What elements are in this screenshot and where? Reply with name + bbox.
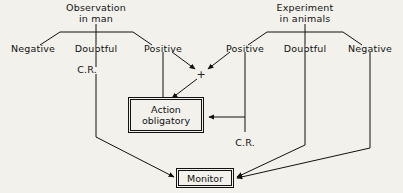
action-box-inner-border: Action obligatory: [130, 99, 202, 131]
action-obligatory-box: Action obligatory: [128, 97, 204, 133]
label-observation-doubtful: Doubtful: [75, 43, 118, 54]
right-tree-branches: [248, 24, 362, 45]
right-tree-title: Experiment in animals: [277, 2, 334, 24]
label-cr-left: C.R.: [77, 64, 97, 75]
plus-to-action: [172, 79, 197, 98]
right-positive-to-plus: [208, 52, 230, 69]
monitor-box-line1: Monitor: [187, 173, 223, 184]
left-tree-branches: [40, 24, 152, 45]
label-experiment-negative: Negative: [348, 43, 392, 54]
left-tree-title: Observation in man: [66, 2, 126, 24]
label-observation-negative: Negative: [11, 43, 55, 54]
left-tree-title-line1: Observation: [66, 2, 126, 13]
label-experiment-positive: Positive: [226, 43, 264, 54]
label-experiment-doubtful: Doubtful: [284, 43, 327, 54]
label-observation-positive: Positive: [144, 43, 182, 54]
action-box-outer-border: Action obligatory: [128, 97, 204, 133]
monitor-box-inner-border: Monitor: [178, 170, 232, 186]
flowchart-diagram: Observation in man Experiment in animals…: [0, 0, 403, 193]
left-tree-title-line2: in man: [66, 13, 126, 24]
left-positive-to-plus: [172, 52, 195, 69]
label-cr-right: C.R.: [235, 137, 255, 148]
right-doubtful-to-monitor: [237, 52, 305, 177]
right-negative-to-monitor: [237, 52, 370, 178]
action-box-line1: Action: [151, 104, 181, 115]
monitor-box: Monitor: [176, 168, 234, 188]
monitor-box-outer-border: Monitor: [176, 168, 234, 188]
action-box-line2: obligatory: [142, 115, 190, 126]
right-tree-title-line1: Experiment: [277, 2, 334, 13]
plus-symbol: +: [196, 68, 205, 81]
right-tree-title-line2: in animals: [277, 13, 334, 24]
